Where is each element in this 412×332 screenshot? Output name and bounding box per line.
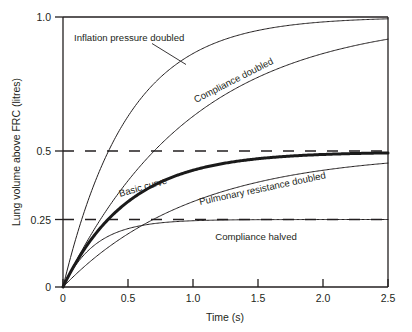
y-axis-title: Lung volume above FRC (litres) <box>10 78 22 226</box>
x-tick-label-1.5: 1.5 <box>251 292 266 304</box>
y-tick-label-0.5: 0.5 <box>36 145 51 157</box>
x-tick-label-0.5: 0.5 <box>121 292 136 304</box>
y-tick-labels: 1.0 0.5 0.25 0 <box>31 11 52 293</box>
lung-volume-time-chart: 1.0 0.5 0.25 0 0 0.5 1.0 1.5 2.0 2.5 Tim… <box>0 0 412 332</box>
y-tick-label-0.25: 0.25 <box>31 214 52 226</box>
series-label-inflation-pressure-doubled: Inflation pressure doubled <box>74 32 184 43</box>
x-tick-label-2.0: 2.0 <box>316 292 331 304</box>
chart-figure: 1.0 0.5 0.25 0 0 0.5 1.0 1.5 2.0 2.5 Tim… <box>0 0 412 332</box>
x-tick-label-1.0: 1.0 <box>186 292 201 304</box>
y-tick-label-1.0: 1.0 <box>36 11 51 23</box>
x-tick-label-2.5: 2.5 <box>381 292 396 304</box>
plot-area-background <box>63 17 388 287</box>
y-tick-label-0: 0 <box>45 281 51 293</box>
series-label-compliance-halved: Compliance halved <box>215 231 297 242</box>
x-tick-labels: 0 0.5 1.0 1.5 2.0 2.5 <box>60 292 395 304</box>
x-tick-label-0: 0 <box>60 292 66 304</box>
y-tick-marks <box>55 17 63 287</box>
x-axis-title: Time (s) <box>206 311 244 323</box>
